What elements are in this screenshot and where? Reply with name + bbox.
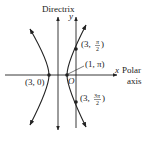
- point-label-3-pi-over-2: (3, π 2 ): [81, 39, 104, 52]
- hyperbola-diagram: Directrix y x Polar axis O (3, 0) (1, π)…: [0, 0, 149, 141]
- origin-label: O: [68, 76, 75, 86]
- point-label-1-pi: (1, π): [85, 59, 105, 69]
- point-label-3-0: (3, 0): [25, 77, 45, 87]
- svg-text:(3,: (3,: [81, 39, 91, 49]
- polar-label: Polar: [122, 65, 141, 75]
- y-axis-label: y: [68, 11, 73, 21]
- x-axis-label: x: [114, 65, 119, 75]
- point-3-3pi-over-2: [74, 100, 78, 104]
- svg-text:(3,: (3,: [80, 93, 90, 103]
- axis-label: axis: [127, 76, 142, 86]
- svg-text:π: π: [96, 39, 100, 45]
- point-3-pi-over-2: [74, 47, 78, 51]
- svg-text:3π: 3π: [93, 93, 101, 99]
- svg-text:): ): [101, 39, 104, 49]
- svg-text:): ): [102, 93, 105, 103]
- point-label-3-3pi-over-2: (3, 3π 2 ): [80, 93, 105, 106]
- svg-text:2: 2: [96, 100, 99, 106]
- point-3-0: [47, 73, 51, 77]
- svg-text:2: 2: [96, 46, 99, 52]
